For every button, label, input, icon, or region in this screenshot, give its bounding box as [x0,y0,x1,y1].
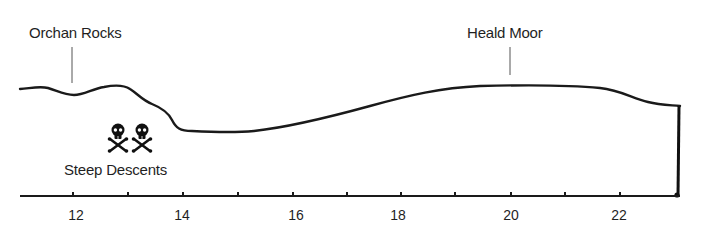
skull-and-crossbones-icon [108,124,129,153]
x-tick-label-12: 12 [68,207,84,223]
skull-and-crossbones-icon [132,124,153,153]
profile-end-line [678,106,679,196]
x-tick-label-18: 18 [390,207,406,223]
heald-moor-label: Heald Moor [467,24,543,41]
x-tick-label-22: 22 [611,207,627,223]
x-tick-label-16: 16 [288,207,304,223]
x-tick-label-14: 14 [174,207,190,223]
orchan-rocks-label: Orchan Rocks [29,24,122,41]
steep-descents-label: Steep Descents [64,161,167,178]
x-tick-label-20: 20 [503,207,519,223]
